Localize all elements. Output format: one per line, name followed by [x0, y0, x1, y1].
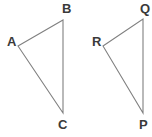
triangles-drawing [0, 0, 152, 137]
vertex-label-q: Q [140, 2, 150, 15]
vertex-label-b: B [62, 2, 71, 15]
triangle-abc-outline [18, 20, 63, 113]
triangle-rqp [103, 19, 143, 113]
triangle-rqp-outline [103, 19, 143, 113]
vertex-label-r: R [92, 35, 101, 48]
vertex-label-c: C [58, 118, 67, 131]
geometry-figure-canvas: A B C R Q P [0, 0, 152, 137]
triangle-abc [18, 20, 63, 113]
vertex-label-a: A [7, 35, 16, 48]
vertex-label-p: P [139, 118, 148, 131]
